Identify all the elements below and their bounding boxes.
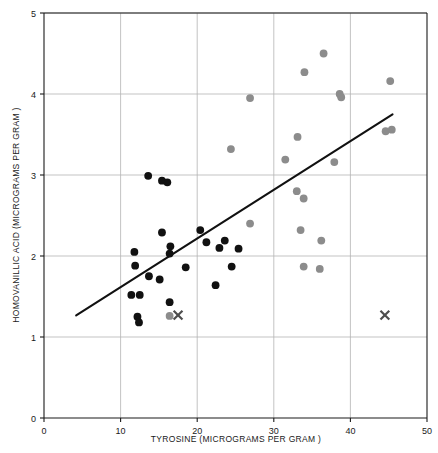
y-tick-label: 3 — [31, 171, 36, 181]
data-point-gray-points — [320, 50, 328, 58]
data-point-gray-points — [166, 312, 174, 320]
scatter-plot-figure: 01234501020304050 TYROSINE (MICROGRAMS P… — [0, 0, 438, 453]
data-point-dark-points — [156, 276, 164, 284]
data-point-dark-points — [163, 178, 171, 186]
data-point-gray-points — [227, 145, 235, 153]
data-point-dark-points — [221, 237, 229, 245]
data-point-dark-points — [144, 172, 152, 180]
data-point-gray-points — [317, 237, 325, 245]
data-point-dark-points — [166, 250, 174, 258]
x-tick-label: 40 — [345, 426, 355, 436]
data-point-dark-points — [136, 291, 144, 299]
data-point-gray-points — [301, 68, 309, 76]
data-point-gray-points — [337, 93, 345, 101]
data-point-dark-points — [158, 229, 166, 237]
data-point-gray-points — [294, 133, 302, 141]
data-point-dark-points — [135, 319, 143, 327]
data-point-gray-points — [386, 77, 394, 85]
data-point-gray-points — [293, 187, 301, 195]
data-point-dark-points — [196, 226, 204, 234]
data-point-gray-points — [297, 226, 305, 234]
y-tick-label: 2 — [31, 252, 36, 262]
data-point-dark-points — [166, 242, 174, 250]
data-point-gray-points — [246, 220, 254, 228]
x-tick-label: 10 — [116, 426, 126, 436]
y-axis-title: HOMOVANILLIC ACID (MICROGRAMS PER GRAM ) — [11, 107, 21, 322]
y-tick-label: 5 — [31, 9, 36, 19]
data-point-dark-points — [166, 298, 174, 306]
y-tick-label: 1 — [31, 333, 36, 343]
data-point-dark-points — [228, 263, 236, 271]
data-point-dark-points — [216, 244, 224, 252]
chart-canvas: 01234501020304050 TYROSINE (MICROGRAMS P… — [0, 0, 438, 453]
data-point-dark-points — [235, 245, 243, 253]
data-point-gray-points — [300, 263, 308, 271]
data-point-gray-points — [300, 195, 308, 203]
chart-background — [0, 0, 438, 453]
y-tick-label: 4 — [31, 90, 36, 100]
data-point-dark-points — [127, 291, 135, 299]
data-point-gray-points — [246, 94, 254, 102]
x-tick-label: 50 — [422, 426, 432, 436]
data-point-dark-points — [182, 263, 190, 271]
data-point-gray-points — [330, 158, 338, 166]
data-point-dark-points — [212, 281, 220, 289]
data-point-dark-points — [145, 272, 153, 280]
data-point-gray-points — [388, 126, 396, 134]
x-tick-label: 0 — [41, 426, 46, 436]
data-point-gray-points — [316, 265, 324, 273]
data-point-dark-points — [131, 262, 139, 270]
x-axis-title: TYROSINE (MICROGRAMS PER GRAM ) — [151, 434, 321, 444]
data-point-dark-points — [202, 238, 210, 246]
y-tick-label: 0 — [31, 414, 36, 424]
data-point-gray-points — [281, 156, 289, 164]
data-point-dark-points — [130, 248, 138, 256]
